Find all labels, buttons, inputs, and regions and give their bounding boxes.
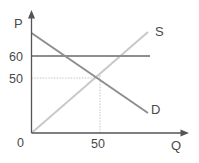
x-axis-arrow-icon bbox=[181, 130, 190, 137]
demand-curve-label: D bbox=[151, 102, 160, 117]
supply-curve-label: S bbox=[155, 24, 164, 39]
y-axis-title: P bbox=[14, 16, 23, 31]
supply-demand-chart: P Q 0 60 50 50 S D bbox=[0, 0, 199, 163]
y-tick-label-50: 50 bbox=[9, 72, 23, 86]
demand-curve bbox=[32, 33, 149, 113]
axes bbox=[28, 10, 189, 137]
x-axis-title: Q bbox=[171, 138, 181, 153]
y-axis-arrow-icon bbox=[28, 10, 35, 19]
supply-curve-group bbox=[32, 32, 149, 133]
supply-curve bbox=[32, 32, 149, 133]
origin-label: 0 bbox=[17, 136, 24, 150]
y-tick-label-60: 60 bbox=[9, 50, 23, 64]
x-tick-label-50: 50 bbox=[91, 137, 105, 151]
